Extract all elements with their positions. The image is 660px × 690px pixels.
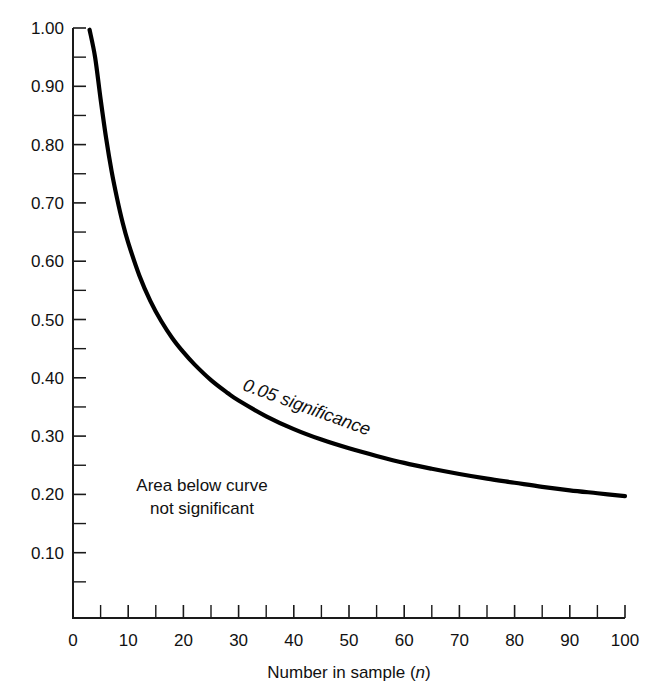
x-axis-title-symbol: n [416,663,425,682]
y-tick-label: 0.20 [31,485,64,504]
x-tick-label: 80 [505,631,524,650]
y-tick-label: 0.90 [31,77,64,96]
x-tick-label: 90 [560,631,579,650]
x-tick-label: 50 [340,631,359,650]
x-tick-label: 100 [611,631,639,650]
x-axis-title-group: Number in sample (n) [267,663,430,682]
y-tick-label: 0.30 [31,427,64,446]
significance-curve-chart: 0.100.200.300.400.500.600.700.800.901.00… [0,0,660,690]
y-tick-label: 1.00 [31,19,64,38]
x-tick-label: 70 [450,631,469,650]
chart-background [0,0,660,690]
y-tick-label: 0.50 [31,311,64,330]
x-tick-label: 60 [395,631,414,650]
y-tick-label: 0.80 [31,136,64,155]
area-note-line-2: not significant [150,499,254,518]
y-tick-label: 0.70 [31,194,64,213]
x-tick-label: 10 [119,631,138,650]
chart-page: 0.100.200.300.400.500.600.700.800.901.00… [0,0,660,690]
x-tick-label: 30 [229,631,248,650]
x-axis-title-text: Number in sample [267,663,405,682]
y-tick-label: 0.10 [31,544,64,563]
x-tick-label: 20 [174,631,193,650]
x-tick-label: 0 [68,631,77,650]
y-tick-label: 0.40 [31,369,64,388]
x-tick-label: 40 [284,631,303,650]
area-note-line-1: Area below curve [136,476,267,495]
x-axis-title: Number in sample (n) [267,663,430,682]
y-tick-label: 0.60 [31,252,64,271]
